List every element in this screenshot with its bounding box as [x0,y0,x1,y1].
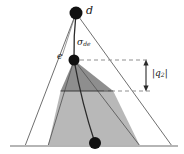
node-e [69,55,80,66]
q2-magnitude-label: |q2| [152,69,168,78]
edge-d-to-e [74,13,76,60]
upper-shaded-region [61,60,114,91]
node-d [70,7,83,20]
node-d-label: d [86,5,93,16]
abs-bar-close: | [165,68,168,78]
geometry-diagram: d e σde |q2| [0,0,184,154]
sigma-de-label: σde [77,38,91,47]
sigma-subscript: de [83,40,90,47]
node-e-label: e [57,52,62,61]
node-bottom [89,137,101,149]
